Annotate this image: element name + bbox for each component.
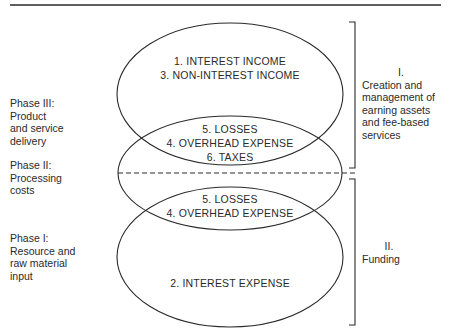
group-ii-line: Funding — [362, 253, 450, 266]
group-i-line: Creation and — [362, 79, 450, 92]
group-i-line: services — [362, 129, 450, 142]
item-non-interest-income: 3. NON-INTEREST INCOME — [120, 68, 340, 82]
phase-iii-line: delivery — [10, 135, 110, 148]
phase-iii-line: Product — [10, 110, 110, 123]
bracket-i — [349, 22, 355, 168]
item-interest-income: 1. INTEREST INCOME — [120, 54, 340, 68]
item-losses: 5. LOSSES — [120, 192, 340, 206]
item-overhead-expense: 4. OVERHEAD EXPENSE — [120, 206, 340, 220]
phase-i-line: Phase I: — [10, 232, 110, 245]
phase-iii-label: Phase III: Product and service delivery — [10, 97, 110, 147]
group-i-line: earning assets — [362, 104, 450, 117]
phase-ii-line: Phase II: — [10, 159, 110, 172]
phase-ii-line: Processing — [10, 172, 110, 185]
item-losses: 5. LOSSES — [120, 122, 340, 136]
funding-items: 2. INTEREST EXPENSE — [120, 276, 340, 290]
item-interest-expense: 2. INTEREST EXPENSE — [120, 276, 340, 290]
phase-ii-label: Phase II: Processing costs — [10, 159, 110, 197]
group-i-label: I. Creation and management of earning as… — [362, 66, 450, 141]
group-i-line: and fee-based — [362, 116, 450, 129]
phase-i-line: Resource and — [10, 245, 110, 258]
item-overhead-expense: 4. OVERHEAD EXPENSE — [120, 136, 340, 150]
group-ii-label: II. Funding — [362, 240, 450, 265]
group-ii-numeral: II. — [362, 240, 416, 253]
group-i-line: management of — [362, 91, 450, 104]
phase-i-line: input — [10, 270, 110, 283]
phase-i-label: Phase I: Resource and raw material input — [10, 232, 110, 282]
bracket-ii — [349, 179, 355, 325]
income-items: 1. INTEREST INCOME 3. NON-INTEREST INCOM… — [120, 54, 340, 82]
phase-ii-line: costs — [10, 184, 110, 197]
phase-iii-line: Phase III: — [10, 97, 110, 110]
phase-iii-line: and service — [10, 122, 110, 135]
processing-items-upper: 5. LOSSES 4. OVERHEAD EXPENSE 6. TAXES — [120, 122, 340, 164]
item-taxes: 6. TAXES — [120, 150, 340, 164]
phase-i-line: raw material — [10, 257, 110, 270]
processing-items-lower: 5. LOSSES 4. OVERHEAD EXPENSE — [120, 192, 340, 220]
group-i-numeral: I. — [362, 66, 440, 79]
